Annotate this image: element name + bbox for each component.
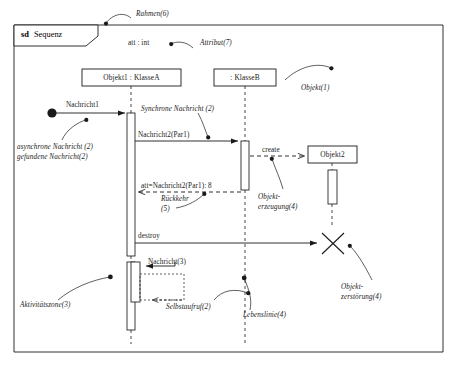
- frame-name: Sequenz: [34, 30, 62, 39]
- annotation-gefundene-line2: gefundene Nachricht(2): [17, 153, 93, 163]
- annotation-objekterzeugung-line1: Objekt-: [258, 193, 298, 203]
- annotation-objekt: Objekt(1): [301, 84, 329, 93]
- message-label-destroy: destroy: [138, 232, 160, 241]
- leader-objekt1-annotation: [285, 65, 334, 80]
- annotation-asynchrone-line1: asynchrone Nachricht (2): [17, 143, 93, 153]
- message-label-reply: att=Nachricht2(Par1): 8: [141, 182, 212, 191]
- activation-bar-klasseb: [241, 141, 249, 190]
- lifeline-head-objekt2: Objekt2: [308, 150, 357, 159]
- leader-objekterzeugung: [270, 157, 283, 189]
- message-label-nachricht1: Nachricht1: [66, 101, 99, 110]
- leader-attribut: [169, 42, 193, 48]
- lifeline-head-objekt1: Objekt1 : KlasseA: [82, 73, 181, 82]
- annotation-lebenslinie: Lebenslinie(4): [243, 311, 286, 320]
- destruction-marker-x: [322, 233, 344, 254]
- annotation-rahmen: Rahmen(6): [136, 10, 169, 19]
- message-label-create: create: [262, 146, 280, 155]
- annotation-asynchrone-nachricht: asynchrone Nachricht (2) gefundene Nachr…: [17, 143, 93, 162]
- leader-rahmen: [104, 14, 131, 25]
- leader-async-message: [62, 118, 88, 140]
- activation-bar-objekt1-main: [127, 113, 135, 256]
- annotation-selbstaufruf: Selbstaufruf(2): [166, 303, 211, 312]
- activation-bar-objekt1-lower: [127, 262, 140, 330]
- sequence-diagram-canvas: Rahmen(6) sd Sequenz att : int Attribut(…: [0, 0, 457, 369]
- annotation-rueckkehr-line1: Rückkehr: [161, 195, 189, 205]
- lifeline-head-klasseb: : KlasseB: [214, 73, 276, 82]
- annotation-attribut: Attribut(7): [200, 39, 232, 48]
- annotation-synchrone-nachricht: Synchrone Nachricht (2): [141, 105, 214, 114]
- frame-keyword: sd: [21, 30, 29, 39]
- leader-aktivitaetszone: [58, 275, 113, 301]
- annotation-rueckkehr: Rückkehr (5): [161, 195, 189, 214]
- frame-name-label: sd Sequenz: [21, 30, 62, 39]
- message-label-nachricht3: Nachricht(3): [148, 258, 186, 267]
- activation-bar-objekt2: [328, 170, 337, 204]
- annotation-objektzerstoerung-line2: zerstörung(4): [341, 293, 381, 303]
- annotation-objektzerstoerung: Objekt- zerstörung(4): [341, 283, 381, 302]
- annotation-objekterzeugung-line2: erzeugung(4): [258, 203, 298, 213]
- leader-objektzerstoerung: [348, 244, 372, 280]
- annotation-objekterzeugung: Objekt- erzeugung(4): [258, 193, 298, 212]
- message-selbstaufruf: [140, 274, 184, 300]
- annotation-rueckkehr-line2: (5): [161, 205, 189, 215]
- annotation-objektzerstoerung-line1: Objekt-: [341, 283, 381, 293]
- diagram-vector-layer: [0, 0, 457, 369]
- annotation-aktivitaetszone: Aktivitätszone(3): [20, 301, 70, 310]
- leader-synchrone-message: [198, 113, 210, 139]
- attribute-declaration: att : int: [128, 39, 149, 48]
- message-label-nachricht2: Nachricht2(Par1): [138, 131, 190, 140]
